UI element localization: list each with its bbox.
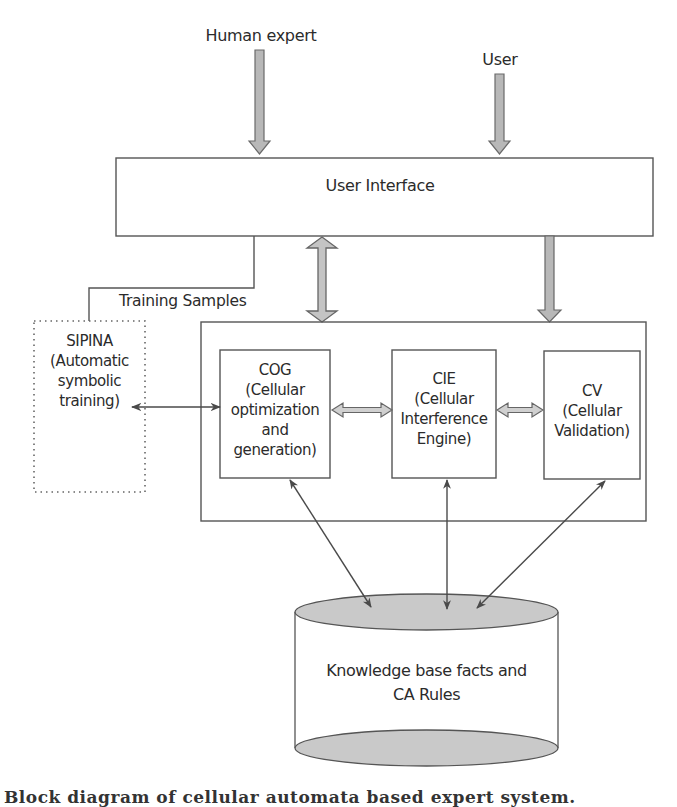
ui-container-down-arrow-icon [538,236,561,322]
cv-line: (Cellular [562,401,621,421]
cv-kb-double-arrow-icon [477,481,605,608]
knowledge-base-text: Knowledge base facts and CA Rules [295,659,558,707]
user-interface-box [116,158,653,236]
cie-cv-double-arrow-icon [497,403,543,417]
cog-line: generation) [233,440,316,460]
cog-line: optimization [231,400,320,420]
user-interface-label: User Interface [300,177,460,195]
cog-cie-double-arrow-icon [332,403,392,417]
sipina-line: (Automatic [50,351,129,371]
cie-line: Engine) [417,429,471,449]
sipina-text: SIPINA (Automatic symbolic training) [34,331,145,411]
cog-text: COG (Cellular optimization and generatio… [220,360,330,460]
figure-caption: Block diagram of cellular automata based… [4,787,576,807]
cv-text: CV (Cellular Validation) [544,381,640,441]
cv-title: CV [582,381,602,401]
human-expert-arrow-icon [249,50,270,154]
cv-line: Validation) [554,421,630,441]
cog-line: (Cellular [245,380,304,400]
cie-title: CIE [432,369,455,389]
sipina-line: symbolic [58,371,121,391]
cie-text: CIE (Cellular Interference Engine) [392,369,496,449]
user-arrow-icon [489,74,510,154]
cie-line: (Cellular [414,389,473,409]
user-label: User [478,51,522,69]
cog-line: and [261,420,288,440]
cog-title: COG [259,360,292,380]
cog-kb-double-arrow-icon [290,480,371,607]
sipina-title: SIPINA [66,331,113,351]
ui-container-double-arrow-icon [307,237,337,322]
cie-line: Interference [401,409,488,429]
knowledge-base-line: Knowledge base facts and [326,659,527,683]
knowledge-base-line: CA Rules [393,683,460,707]
sipina-line: training) [59,391,119,411]
human-expert-label: Human expert [196,27,326,45]
training-samples-label: Training Samples [119,292,269,310]
